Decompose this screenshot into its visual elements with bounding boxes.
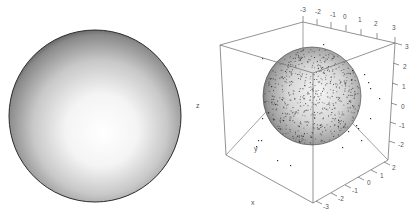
figure: z	[0, 0, 418, 217]
right-axis-labels: 3 2 1 0 -1 -2	[398, 43, 409, 148]
tick-label: -3	[323, 203, 329, 210]
tick-label: -2	[338, 195, 344, 202]
tick-label: -1	[399, 122, 405, 129]
tick-label: 0	[401, 103, 405, 110]
tick-label: 3	[405, 43, 409, 50]
tick-label: -2	[398, 141, 404, 148]
bottom-axis-ticks	[316, 162, 390, 204]
tick-label: -3	[300, 6, 306, 13]
x-axis-label: x	[251, 199, 255, 206]
top-axis-labels: -3 -2 -1 0 1 2 3	[300, 6, 396, 31]
tick-label: -1	[330, 11, 336, 18]
tick-label: 2	[403, 63, 407, 70]
bottom-axis-labels: 2 1 0 -1 -2 -3	[323, 164, 396, 210]
tick-label: 2	[392, 164, 396, 171]
tick-label: 0	[343, 13, 347, 20]
top-axis-ticks	[303, 16, 395, 43]
tick-label: -1	[352, 187, 358, 194]
left-panel	[9, 30, 181, 202]
tick-label: 3	[392, 24, 396, 31]
tick-label: -2	[315, 8, 321, 15]
tick-label: 1	[380, 172, 384, 179]
tick-label: 2	[374, 20, 378, 27]
tick-label: 0	[367, 179, 371, 186]
right-panel: -3 -2 -1 0 1 2 3 3 2 1 0 -1 -2	[220, 6, 409, 210]
y-axis-label: y	[254, 145, 258, 153]
tick-label: 1	[358, 16, 362, 23]
z-axis-label: z	[196, 102, 200, 109]
shaded-sphere	[9, 30, 181, 202]
translucent-sphere	[263, 47, 361, 145]
tick-label: 1	[402, 83, 406, 90]
